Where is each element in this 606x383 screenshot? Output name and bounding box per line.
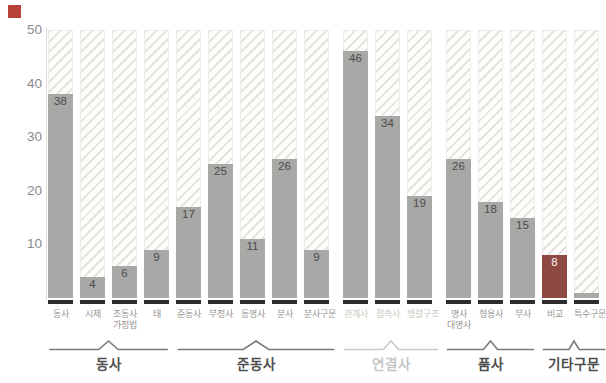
- bar: 8: [542, 255, 567, 298]
- bar: 19: [407, 196, 432, 298]
- group-label: 연결사: [343, 353, 439, 373]
- y-axis-tick-label: 10: [27, 236, 42, 252]
- bar-column: 8: [542, 30, 567, 304]
- baseline-segment: [542, 300, 567, 304]
- bar-column: 4: [80, 30, 105, 304]
- bar-hatched-background: 25: [208, 30, 233, 298]
- bar: 15: [510, 218, 535, 298]
- bar-hatched-background: 4: [80, 30, 105, 298]
- x-axis-tick-label: 비교: [542, 309, 567, 335]
- bar-hatched-background: 46: [343, 30, 368, 298]
- group-brace: [176, 338, 336, 351]
- bar-column: 25: [208, 30, 233, 304]
- bar-hatched-background: 19: [407, 30, 432, 298]
- bar-column: 26: [446, 30, 471, 304]
- x-axis-tick-label: 부사: [510, 309, 535, 335]
- baseline-segment: [574, 300, 599, 304]
- bar-hatched-background: 26: [272, 30, 297, 298]
- bar-group: 172511269준동사부정사동명사분사분사구문준동사: [176, 30, 336, 373]
- x-axis-tick-label: 특수구문: [574, 309, 606, 335]
- bar-value-label: 4: [80, 278, 105, 290]
- bar-value-label: 38: [48, 95, 73, 107]
- bar-value-label: 15: [510, 219, 535, 231]
- bar: 46: [343, 51, 368, 298]
- x-axis-tick-label: 병렬구조: [407, 309, 439, 335]
- bar: 6: [112, 266, 137, 298]
- bar: 17: [176, 207, 201, 298]
- bar-column: 9: [144, 30, 169, 304]
- bar: 26: [272, 159, 297, 298]
- bar-column: 11: [240, 30, 265, 304]
- group-brace: [542, 338, 606, 351]
- bar-value-label: 9: [304, 251, 329, 263]
- bar-value-label: 18: [478, 203, 503, 215]
- group-label: 기타구문: [542, 353, 606, 373]
- bar-hatched-background: 34: [375, 30, 400, 298]
- bar-value-label: 19: [407, 197, 432, 209]
- baseline-segment: [48, 300, 73, 304]
- bar-hatched-background: 11: [240, 30, 265, 298]
- x-axis-tick-label: 준동사: [176, 309, 201, 335]
- bar-group: 8비교특수구문기타구문: [542, 30, 606, 373]
- x-axis-tick-label: 분사구문: [304, 309, 336, 335]
- y-axis-tick-label: 30: [27, 129, 42, 145]
- chart-area: 38469동사시제조동사 가정법태동사172511269준동사부정사동명사분사분…: [48, 30, 606, 373]
- baseline-segment: [272, 300, 297, 304]
- bar-hatched-background: [574, 30, 599, 298]
- bar-value-label: 8: [542, 256, 567, 268]
- x-axis-tick-label: 태: [144, 309, 169, 335]
- group-brace: [446, 338, 535, 351]
- bar: 25: [208, 164, 233, 298]
- bar-value-label: 26: [446, 160, 471, 172]
- red-square-marker: [8, 5, 21, 18]
- bar-hatched-background: 9: [304, 30, 329, 298]
- group-label: 품사: [446, 353, 535, 373]
- bar-column: 6: [112, 30, 137, 304]
- bar-hatched-background: 15: [510, 30, 535, 298]
- x-axis-tick-label: 분사: [272, 309, 297, 335]
- bar-hatched-background: 26: [446, 30, 471, 298]
- bar-value-label: 25: [208, 165, 233, 177]
- bar-value-label: 17: [176, 208, 201, 220]
- x-axis-tick-label: 조동사 가정법: [112, 309, 137, 335]
- bar-column: 38: [48, 30, 73, 304]
- x-axis-tick-label: 시제: [80, 309, 105, 335]
- bar-group: 261815명사 대명사형용사부사품사: [446, 30, 535, 373]
- baseline-segment: [240, 300, 265, 304]
- bar-value-label: 34: [375, 117, 400, 129]
- bar-column: 18: [478, 30, 503, 304]
- bar-hatched-background: 9: [144, 30, 169, 298]
- bar: 34: [375, 116, 400, 298]
- bar-hatched-background: 17: [176, 30, 201, 298]
- x-axis-tick-label: 동명사: [240, 309, 265, 335]
- x-axis-tick-label: 접속사: [375, 309, 400, 335]
- bar: 26: [446, 159, 471, 298]
- baseline-segment: [343, 300, 368, 304]
- group-label: 동사: [48, 353, 169, 373]
- x-axis-tick-label: 명사 대명사: [446, 309, 471, 335]
- group-brace: [343, 338, 439, 351]
- group-label: 준동사: [176, 353, 336, 373]
- bar: 38: [48, 94, 73, 298]
- baseline-segment: [510, 300, 535, 304]
- baseline-segment: [144, 300, 169, 304]
- y-axis-tick-label: 40: [27, 76, 42, 92]
- bar-value-label: 46: [343, 52, 368, 64]
- baseline-segment: [176, 300, 201, 304]
- bar-column: 15: [510, 30, 535, 304]
- bar-value-label: 11: [240, 240, 265, 252]
- bar-hatched-background: 6: [112, 30, 137, 298]
- bar: 9: [144, 250, 169, 298]
- bar-hatched-background: 38: [48, 30, 73, 298]
- bar-column: 26: [272, 30, 297, 304]
- bar-column: [574, 30, 599, 304]
- x-axis-tick-label: 부정사: [208, 309, 233, 335]
- baseline-segment: [112, 300, 137, 304]
- bar-column: 9: [304, 30, 329, 304]
- baseline-segment: [208, 300, 233, 304]
- bar: 11: [240, 239, 265, 298]
- baseline-segment: [304, 300, 329, 304]
- y-axis-line: [46, 28, 47, 300]
- bar: 9: [304, 250, 329, 298]
